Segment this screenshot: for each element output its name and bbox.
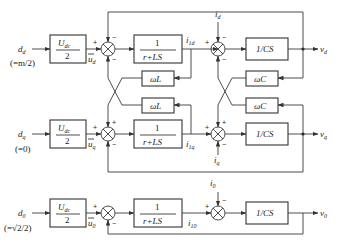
svg-text:−: − xyxy=(222,34,226,41)
svg-text:2: 2 xyxy=(65,136,70,146)
sum-junction-10 xyxy=(101,206,115,220)
i1d-label: i1d xyxy=(186,35,196,46)
output-vq-label: vq xyxy=(320,129,327,140)
row-d: dd (=m/2) Udc 2 ud + − − 1 r+LS i1d + id… xyxy=(10,9,328,78)
u-d-label: ud xyxy=(88,54,97,65)
svg-text:+: + xyxy=(93,203,97,210)
id-disturbance-label: id xyxy=(215,9,222,20)
svg-text:−: − xyxy=(112,141,116,148)
input-q-note: (=0) xyxy=(15,144,31,154)
svg-text:−: − xyxy=(112,56,116,63)
svg-text:1/CS: 1/CS xyxy=(256,44,274,54)
i1q-label: i1q xyxy=(186,139,195,150)
svg-text:ωC: ωC xyxy=(254,74,267,84)
sum-junction-20 xyxy=(211,206,225,220)
svg-text:r+LS: r+LS xyxy=(143,216,163,226)
row-0: d0 (=√2/2) Udc 2 u0 + − 1 r+LS i10 + i0 … xyxy=(4,178,327,234)
svg-text:ωL: ωL xyxy=(150,101,161,111)
i0-disturbance-label: i0 xyxy=(210,178,216,189)
svg-text:2: 2 xyxy=(65,51,70,61)
input-0-label: d0 xyxy=(18,208,26,219)
svg-text:+: + xyxy=(112,119,116,126)
svg-text:1/CS: 1/CS xyxy=(256,208,274,218)
svg-text:1: 1 xyxy=(155,123,160,133)
block-diagram: dd (=m/2) Udc 2 ud + − − 1 r+LS i1d + id… xyxy=(0,0,337,246)
input-0-note: (=√2/2) xyxy=(4,223,32,233)
u-0-label: u0 xyxy=(88,218,96,229)
svg-text:−: − xyxy=(112,34,116,41)
sum-junction-2q xyxy=(211,127,225,141)
svg-text:+: + xyxy=(205,39,209,46)
svg-text:−: − xyxy=(112,220,116,227)
svg-text:−: − xyxy=(222,56,226,63)
svg-text:+: + xyxy=(93,124,97,131)
svg-text:r+LS: r+LS xyxy=(143,52,163,62)
row-q: dq (=0) Udc 2 uq + + − 1 r+LS i1q + + − xyxy=(15,119,327,172)
svg-text:1: 1 xyxy=(155,38,160,48)
u-q-label: uq xyxy=(88,139,96,150)
output-v0-label: v0 xyxy=(320,208,327,219)
input-q-label: dq xyxy=(18,129,26,140)
input-d-label: dd xyxy=(18,44,27,55)
svg-text:+: + xyxy=(93,39,97,46)
i10-label: i10 xyxy=(188,218,197,229)
svg-text:2: 2 xyxy=(65,215,70,225)
iq-disturbance-label: iq xyxy=(214,155,220,166)
svg-text:+: + xyxy=(222,119,226,126)
sum-junction-1d xyxy=(101,42,115,56)
input-d-note: (=m/2) xyxy=(10,58,35,68)
svg-text:1/CS: 1/CS xyxy=(256,129,274,139)
svg-text:r+LS: r+LS xyxy=(143,137,163,147)
svg-text:ωC: ωC xyxy=(254,101,267,111)
svg-text:+: + xyxy=(205,203,209,210)
svg-text:−: − xyxy=(222,197,226,204)
svg-text:ωL: ωL xyxy=(150,74,161,84)
sum-junction-1q xyxy=(101,127,115,141)
svg-text:−: − xyxy=(222,141,226,148)
output-vd-label: vd xyxy=(320,44,328,55)
svg-text:1: 1 xyxy=(155,202,160,212)
svg-text:+: + xyxy=(205,124,209,131)
